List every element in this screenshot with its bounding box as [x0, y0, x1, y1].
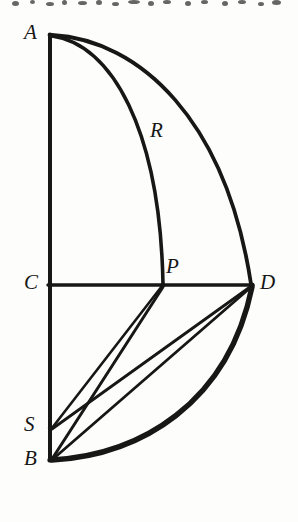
point-label-D: D — [260, 272, 275, 293]
vertex-dot-D — [250, 283, 255, 288]
vertex-dot-S — [48, 426, 52, 430]
line-S-P — [52, 286, 162, 428]
point-label-B: B — [24, 448, 37, 469]
point-label-A: A — [24, 22, 37, 43]
arc-A-D — [52, 35, 251, 284]
point-label-P: P — [166, 256, 179, 277]
vertex-dot-P — [161, 283, 165, 287]
point-label-S: S — [24, 414, 35, 435]
vertex-dot-B — [47, 457, 52, 462]
vertex-dot-A — [48, 33, 53, 38]
geometry-figure: A R C P D S B — [0, 0, 298, 522]
figure-canvas — [0, 0, 298, 522]
point-label-C: C — [24, 272, 38, 293]
point-label-R: R — [150, 120, 163, 141]
